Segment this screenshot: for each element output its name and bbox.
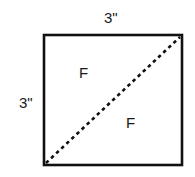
square-fold-diagram: 3" 3" F F [0, 0, 195, 177]
diagram-graphic [0, 0, 195, 177]
left-dimension-label: 3" [19, 95, 33, 110]
diagonal-fold-line [46, 37, 180, 163]
region-label-upper-left: F [79, 65, 88, 80]
top-dimension-label: 3" [104, 10, 118, 25]
region-label-lower-right: F [126, 115, 135, 130]
